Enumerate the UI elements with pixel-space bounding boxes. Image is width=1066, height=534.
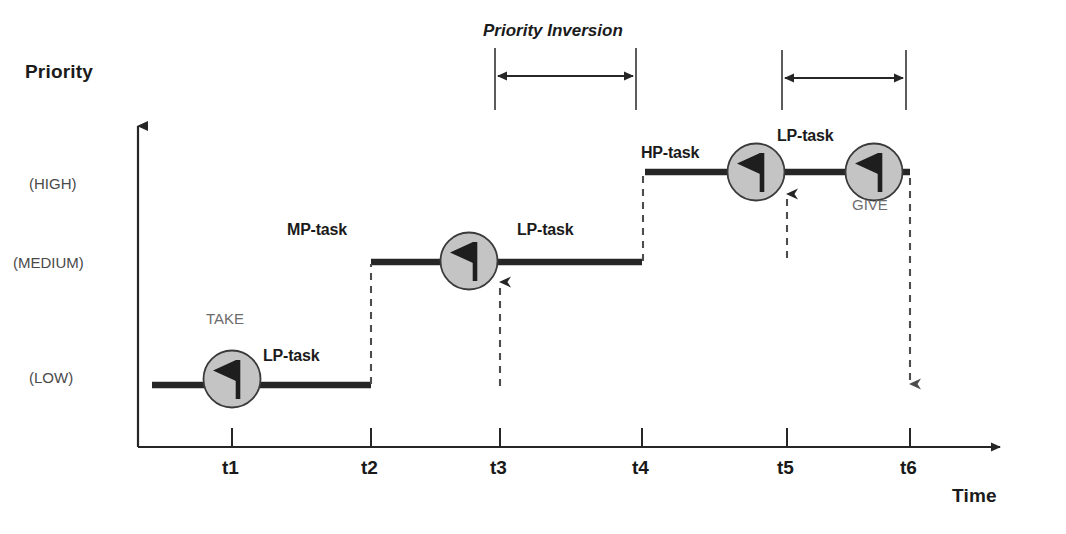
y-level-label-low: (LOW): [29, 370, 73, 385]
x-tick-label-t4: t4: [632, 458, 649, 477]
annotation-blocked-span: [782, 50, 906, 110]
priority-inversion-svg: [0, 0, 1066, 534]
diagram-canvas: Priority Time (HIGH) (MEDIUM) (LOW) t1 t…: [0, 0, 1066, 534]
x-axis-ticks: [232, 428, 910, 447]
x-axis-title: Time: [952, 486, 997, 505]
semaphore-op-label-give: GIVE: [852, 197, 888, 212]
task-label-lp-task-high: LP-task: [777, 128, 833, 144]
y-level-label-medium: (MEDIUM): [13, 255, 84, 270]
x-tick-label-t1: t1: [222, 458, 239, 477]
semaphore-op-label-take: TAKE: [206, 311, 244, 326]
task-label-lp-task-low: LP-task: [263, 348, 319, 364]
y-level-label-high: (HIGH): [29, 176, 77, 191]
x-tick-label-t5: t5: [777, 458, 794, 477]
task-label-lp-task-medium: LP-task: [517, 222, 573, 238]
semaphore-marker-t3[interactable]: [441, 233, 498, 290]
x-tick-label-t3: t3: [490, 458, 507, 477]
semaphore-marker-t5[interactable]: [728, 144, 785, 201]
y-axis-title: Priority: [25, 62, 93, 81]
task-label-mp-task: MP-task: [287, 222, 347, 238]
task-label-hp-task: HP-task: [641, 145, 699, 161]
annotation-priority-inversion: [495, 48, 636, 110]
x-tick-label-t6: t6: [900, 458, 917, 477]
x-tick-label-t2: t2: [361, 458, 378, 477]
annotation-label-priority-inversion: Priority Inversion: [483, 22, 623, 39]
semaphore-marker-t6[interactable]: [846, 144, 903, 201]
event-arrows: [500, 178, 910, 386]
semaphore-marker-t1[interactable]: [204, 351, 261, 408]
priority-risers: [371, 175, 643, 384]
